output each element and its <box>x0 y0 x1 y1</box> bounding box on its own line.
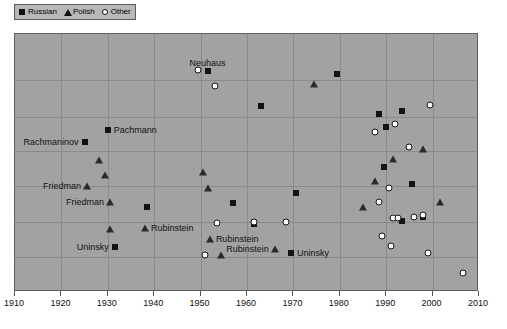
x-tick <box>153 291 154 296</box>
point-label: Rachmaninov <box>24 138 79 147</box>
square-icon <box>19 9 26 16</box>
data-point-russian <box>381 164 387 170</box>
data-point-polish <box>310 81 318 88</box>
legend-entry-other: Other <box>102 8 131 16</box>
gridline-horizontal <box>15 151 477 152</box>
data-point-other <box>376 198 383 205</box>
point-label: Rubinstein <box>226 245 269 254</box>
x-tick <box>292 291 293 296</box>
point-label: Rubinstein <box>151 224 194 233</box>
data-point-other <box>394 215 401 222</box>
data-point-other <box>406 144 413 151</box>
data-point-polish <box>204 185 212 192</box>
x-tick-label: 1980 <box>329 298 349 308</box>
data-point-other <box>427 101 434 108</box>
data-point-other <box>392 121 399 128</box>
data-point-polish <box>371 178 379 185</box>
data-point-other <box>420 211 427 218</box>
x-tick-label: 2010 <box>468 298 488 308</box>
point-label: Friedman <box>66 197 104 206</box>
data-point-russian <box>409 181 415 187</box>
data-point-other <box>411 214 418 221</box>
data-point-polish <box>95 157 103 164</box>
x-tick <box>385 291 386 296</box>
data-point-polish <box>359 203 367 210</box>
point-label: Uninsky <box>297 248 329 257</box>
x-tick <box>200 291 201 296</box>
data-point-other <box>385 184 392 191</box>
data-point-russian <box>112 244 118 250</box>
gridline-vertical <box>386 34 387 290</box>
data-point-other <box>250 218 257 225</box>
data-point-other <box>202 251 209 258</box>
data-point-polish <box>419 145 427 152</box>
x-tick <box>478 291 479 296</box>
data-point-other <box>387 243 394 250</box>
point-label: Uninsky <box>77 242 109 251</box>
gridline-horizontal <box>15 117 477 118</box>
gridline-vertical <box>108 34 109 290</box>
x-tick-label: 1910 <box>4 298 24 308</box>
x-tick <box>60 291 61 296</box>
x-tick-label: 1990 <box>375 298 395 308</box>
x-tick <box>432 291 433 296</box>
x-tick <box>14 291 15 296</box>
x-axis: 1910192019301940195019601970198019902000… <box>14 291 478 329</box>
point-label: Rubinstein <box>216 235 259 244</box>
plot-area: PachmannRachmaninovUninskyNeuhausUninsky… <box>14 33 478 291</box>
data-point-polish <box>141 225 149 232</box>
data-point-other <box>459 269 466 276</box>
legend-label: Other <box>111 8 131 16</box>
point-label: Pachmann <box>114 125 157 134</box>
x-tick <box>246 291 247 296</box>
data-point-russian <box>230 200 236 206</box>
gridline-vertical <box>433 34 434 290</box>
data-point-other <box>213 219 220 226</box>
data-point-polish <box>436 198 444 205</box>
data-point-russian <box>205 68 211 74</box>
data-point-other <box>378 232 385 239</box>
data-point-polish <box>217 251 225 258</box>
data-point-other <box>195 66 202 73</box>
data-point-polish <box>199 169 207 176</box>
x-tick-label: 1970 <box>282 298 302 308</box>
data-point-russian <box>399 108 405 114</box>
gridline-vertical <box>61 34 62 290</box>
data-point-other <box>283 219 290 226</box>
x-tick <box>339 291 340 296</box>
triangle-icon <box>64 9 71 16</box>
gridline-horizontal <box>15 80 477 81</box>
data-point-russian <box>334 71 340 77</box>
data-point-other <box>424 250 431 257</box>
legend-entry-russian: Russian <box>19 8 57 16</box>
legend-entry-polish: Polish <box>64 8 95 16</box>
gridline-horizontal <box>15 222 477 223</box>
data-point-polish <box>106 226 114 233</box>
data-point-russian <box>288 250 294 256</box>
data-point-polish <box>101 171 109 178</box>
data-point-russian <box>105 127 111 133</box>
circle-icon <box>102 9 109 16</box>
data-point-polish <box>106 198 114 205</box>
x-tick-label: 1930 <box>97 298 117 308</box>
gridline-horizontal <box>15 257 477 258</box>
legend-label: Polish <box>73 8 95 16</box>
data-point-polish <box>83 183 91 190</box>
data-point-russian <box>376 111 382 117</box>
legend-label: Russian <box>28 8 57 16</box>
data-point-russian <box>82 139 88 145</box>
scatter-chart: RussianPolishOther PachmannRachmaninovUn… <box>0 0 507 329</box>
data-point-russian <box>383 124 389 130</box>
x-tick-label: 1960 <box>236 298 256 308</box>
data-point-polish <box>389 156 397 163</box>
data-point-russian <box>293 190 299 196</box>
data-point-russian <box>144 204 150 210</box>
data-point-other <box>371 129 378 136</box>
x-tick-label: 1920 <box>50 298 70 308</box>
x-tick-label: 1950 <box>190 298 210 308</box>
point-label: Friedman <box>43 182 81 191</box>
data-point-polish <box>271 246 279 253</box>
data-point-polish <box>206 236 214 243</box>
gridline-vertical <box>154 34 155 290</box>
data-point-russian <box>258 103 264 109</box>
